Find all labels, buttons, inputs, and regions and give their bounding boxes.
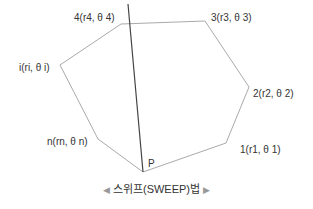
left-marker-icon: ◀: [103, 185, 110, 195]
vertex-3-label: 3(r3, θ 3): [211, 12, 252, 24]
vertex-p-label: P: [148, 158, 155, 170]
vertex-2-label: 2(r2, θ 2): [253, 88, 294, 100]
vertex-4-label: 4(r4, θ 4): [74, 12, 115, 24]
vertex-i-label: i(ri, θ i): [19, 62, 50, 74]
sweep-diagram: [0, 0, 313, 209]
caption-text: 스위프(SWEEP)법: [113, 183, 200, 195]
polygon-outline: [60, 21, 249, 172]
right-marker-icon: ▶: [203, 185, 210, 195]
vertex-1-label: 1(r1, θ 1): [240, 144, 281, 156]
figure-caption: ◀ 스위프(SWEEP)법 ▶: [0, 180, 313, 196]
vertex-n-label: n(rn, θ n): [47, 136, 88, 148]
sweep-line: [128, 4, 143, 172]
